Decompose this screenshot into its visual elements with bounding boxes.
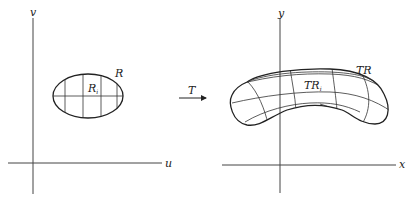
uv-plane: v u R Ri [8,6,172,194]
transformation-diagram: v u R Ri T y x [0,0,408,201]
transformation-label: T [188,84,197,97]
region-r-label: R [114,67,123,80]
x-axis-label: x [399,158,406,171]
y-axis-label: y [277,7,285,20]
v-axis-label: v [30,6,37,19]
u-axis-label: u [165,157,172,170]
subregion-tri-label: TRi [304,79,322,92]
xy-plane: y x TR TRi [222,7,406,193]
region-tr-label: TR [356,64,372,77]
transformation-t: T [179,84,206,98]
subregion-ri-label: Ri [87,82,98,95]
